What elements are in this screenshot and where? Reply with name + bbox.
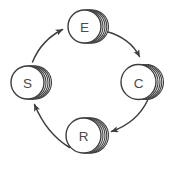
- arrow-R-to-S: [35, 105, 70, 148]
- node-label-C: C: [134, 76, 144, 91]
- node-label-S: S: [23, 76, 32, 91]
- cycle-diagram-canvas: E C R S: [0, 0, 176, 169]
- node-label-E: E: [80, 20, 89, 35]
- cycle-diagram: E C R S: [0, 0, 176, 169]
- arrow-E-to-C: [107, 32, 140, 57]
- arrow-C-to-R: [112, 101, 148, 132]
- arrow-S-to-E: [33, 30, 63, 63]
- node-label-R: R: [79, 129, 89, 144]
